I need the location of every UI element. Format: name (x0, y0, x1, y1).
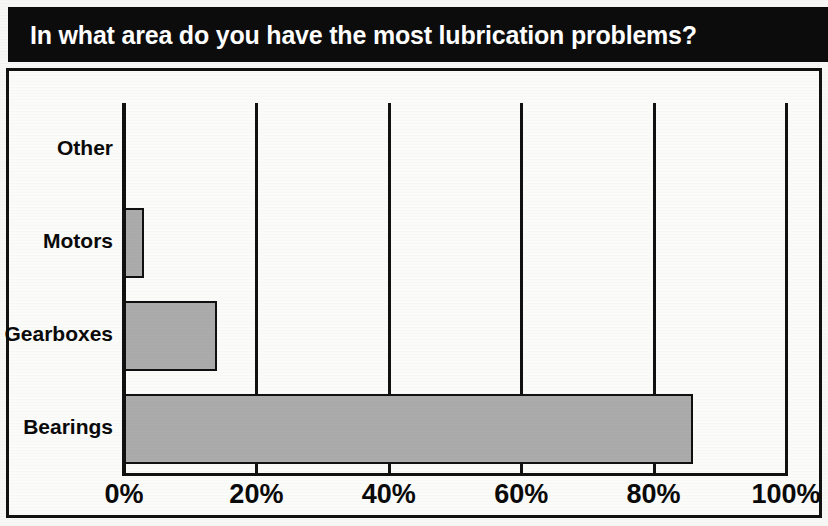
category-label-gearboxes: Gearboxes (4, 322, 113, 346)
bar-gearboxes (124, 301, 217, 371)
bar-bearings (124, 394, 693, 464)
x-tick-label-40: 40% (362, 479, 416, 510)
plot-area: OtherMotorsGearboxesBearings0%20%40%60%8… (9, 71, 819, 515)
bar-motors (124, 208, 144, 278)
category-axis-line (124, 473, 788, 476)
category-label-bearings: Bearings (23, 415, 113, 439)
chart-figure: In what area do you have the most lubric… (0, 0, 828, 526)
x-tick-label-20: 20% (229, 479, 283, 510)
page-title: In what area do you have the most lubric… (30, 20, 697, 49)
chart-plot-frame: OtherMotorsGearboxesBearings0%20%40%60%8… (6, 68, 822, 518)
x-tick-label-80: 80% (627, 479, 681, 510)
x-tick-label-60: 60% (494, 479, 548, 510)
chart-title-banner: In what area do you have the most lubric… (8, 7, 828, 62)
category-label-other: Other (57, 136, 113, 160)
x-tick-label-0: 0% (104, 479, 143, 510)
category-label-motors: Motors (43, 229, 113, 253)
gridline-100 (785, 103, 788, 476)
x-tick-label-100: 100% (751, 479, 820, 510)
